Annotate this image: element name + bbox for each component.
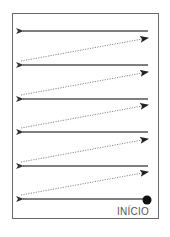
dotted-arrow-1 xyxy=(21,38,148,61)
dotted-arrow-5 xyxy=(21,172,148,195)
dotted-arrow-3 xyxy=(21,105,148,128)
start-dot xyxy=(143,196,152,205)
dotted-arrow-2 xyxy=(21,72,148,95)
dotted-arrow-4 xyxy=(21,139,148,162)
reading-path-diagram xyxy=(0,0,170,237)
solid-arrows xyxy=(23,31,148,199)
dotted-arrows xyxy=(21,38,148,195)
start-label: INÍCIO xyxy=(112,206,154,217)
